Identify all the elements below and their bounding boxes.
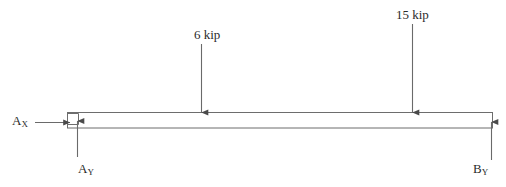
beam-free-body-diagram: 6 kip 15 kip AX AY BY [0, 0, 506, 187]
reaction-label-ax-subscript: X [21, 119, 28, 129]
diagram-canvas [0, 0, 506, 187]
beam-member [68, 113, 493, 129]
reaction-label-ay: AY [78, 162, 94, 175]
reaction-label-by-subscript: Y [482, 167, 489, 177]
load-label-15kip: 15 kip [396, 8, 429, 21]
reaction-label-ay-base: A [78, 161, 87, 176]
reaction-label-by: BY [473, 162, 488, 175]
load-label-6kip: 6 kip [194, 28, 220, 41]
reaction-label-by-base: B [473, 161, 482, 176]
reaction-label-ay-subscript: Y [87, 167, 94, 177]
reaction-label-ax-base: A [12, 113, 21, 128]
reaction-label-ax: AX [12, 114, 28, 127]
